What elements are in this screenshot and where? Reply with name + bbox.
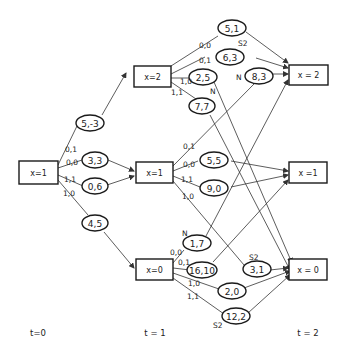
svg-text:5,-3: 5,-3 — [81, 119, 99, 129]
time-label-t0: t=0 — [30, 328, 46, 338]
svg-text:1,1: 1,1 — [171, 88, 183, 97]
payoff-oval: 3,1 — [243, 261, 271, 277]
state-label: x=0 — [146, 266, 163, 275]
state-label: x =1 — [298, 169, 317, 178]
svg-text:0,0: 0,0 — [170, 248, 182, 257]
svg-text:7,7: 7,7 — [195, 102, 209, 112]
tag-s2: S2 — [213, 321, 223, 330]
svg-text:2,5: 2,5 — [196, 73, 210, 83]
payoff-oval: 6,3 — [216, 49, 244, 65]
svg-text:5,1: 5,1 — [225, 24, 239, 34]
svg-text:9,0: 9,0 — [207, 184, 222, 194]
svg-text:1,1: 1,1 — [64, 175, 76, 184]
payoff-oval: 9,0 — [200, 180, 228, 196]
state-label: x = 2 — [298, 71, 320, 80]
state-t1-x0: x=0 — [136, 259, 173, 280]
svg-text:0,6: 0,6 — [88, 182, 103, 192]
svg-text:5,5: 5,5 — [207, 156, 221, 166]
svg-text:16,10: 16,10 — [189, 266, 215, 276]
payoff-oval: 16,10 — [187, 262, 217, 278]
state-t0-x1: x=1 — [19, 161, 58, 184]
state-t2-x0: x = 0 — [289, 259, 327, 280]
time-axis: t=0 t = 1 t = 2 — [30, 328, 319, 338]
svg-text:6,3: 6,3 — [223, 53, 237, 63]
svg-text:1,0: 1,0 — [180, 77, 192, 86]
svg-text:2,0: 2,0 — [225, 287, 240, 297]
time-label-t1: t = 1 — [144, 328, 165, 338]
state-tree-diagram: x=1 x=2 x=1 x=0 x = 2 x =1 x = 0 5,-3 3,… — [0, 0, 344, 358]
payoff-oval: 8,3 — [245, 68, 273, 84]
svg-text:1,1: 1,1 — [187, 292, 199, 301]
state-t1-x1: x=1 — [136, 162, 173, 183]
payoff-oval: 5,1 — [218, 20, 246, 36]
state-t2-x2: x = 2 — [289, 65, 328, 85]
tag-n: N — [210, 87, 216, 96]
payoff-oval: 0,6 — [82, 178, 108, 194]
payoff-oval: 2,0 — [218, 283, 246, 299]
time-label-t2: t = 2 — [297, 328, 318, 338]
svg-text:12,2: 12,2 — [226, 312, 246, 322]
tag-n: N — [236, 73, 242, 82]
payoff-oval: 2,5 — [189, 69, 217, 85]
svg-text:1,1: 1,1 — [181, 175, 193, 184]
svg-text:0,1: 0,1 — [65, 145, 77, 154]
payoff-oval: 7,7 — [189, 98, 215, 114]
svg-text:0,0: 0,0 — [66, 158, 78, 167]
svg-text:0,1: 0,1 — [199, 56, 211, 65]
payoff-oval: 12,2 — [222, 308, 250, 324]
payoff-oval: 4,5 — [82, 215, 108, 231]
edges-from-x2 — [171, 32, 292, 270]
state-label: x = 0 — [297, 266, 319, 275]
state-label: x=1 — [30, 169, 47, 178]
state-t1-x2: x=2 — [134, 66, 171, 87]
svg-text:0,1: 0,1 — [178, 258, 190, 267]
tag-s2: S2 — [238, 39, 248, 48]
svg-text:1,7: 1,7 — [190, 239, 204, 249]
tag-n: N — [182, 229, 188, 238]
svg-text:0,0: 0,0 — [199, 41, 211, 50]
state-label: x=2 — [144, 73, 161, 82]
svg-text:0,1: 0,1 — [183, 142, 195, 151]
svg-text:4,5: 4,5 — [88, 219, 102, 229]
svg-text:1,0: 1,0 — [63, 189, 75, 198]
payoff-oval: 3,3 — [82, 152, 108, 168]
payoff-oval: 5,5 — [200, 152, 228, 168]
payoff-oval: 5,-3 — [76, 115, 104, 131]
svg-text:1,0: 1,0 — [182, 192, 194, 201]
state-label: x=1 — [146, 169, 163, 178]
action-labels-t0: 0,1 0,0 1,1 1,0 — [63, 145, 78, 198]
tag-s2: S2 — [249, 253, 259, 262]
svg-text:0,0: 0,0 — [183, 160, 195, 169]
edges-t0 — [58, 73, 134, 268]
svg-text:8,3: 8,3 — [252, 72, 266, 82]
action-labels-x1: 0,1 0,0 1,1 1,0 — [181, 142, 195, 201]
svg-text:3,1: 3,1 — [250, 265, 264, 275]
svg-text:3,3: 3,3 — [88, 156, 102, 166]
svg-text:1,0: 1,0 — [188, 279, 200, 288]
state-t2-x1: x =1 — [289, 162, 327, 183]
